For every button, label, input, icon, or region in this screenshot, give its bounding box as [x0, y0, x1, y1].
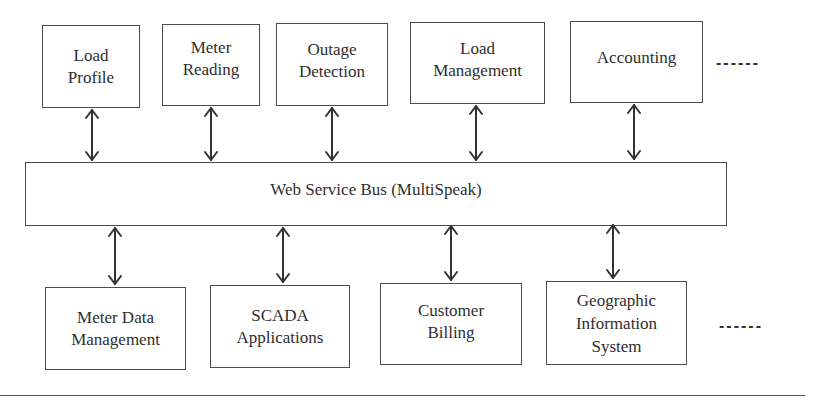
arrow-outage-detection-bus — [326, 108, 338, 160]
connector-arrows — [0, 0, 814, 401]
arrow-bus-scada-applications — [277, 228, 289, 282]
arrow-load-profile-bus — [86, 110, 98, 160]
arrow-bus-meter-data-management — [109, 228, 121, 284]
arrow-load-management-bus — [470, 106, 482, 160]
bottom-rule-divider — [0, 395, 805, 396]
arrow-accounting-bus — [628, 105, 640, 159]
arrow-bus-geographic-information-system — [607, 225, 619, 278]
arrow-bus-customer-billing — [445, 226, 457, 280]
arrow-meter-reading-bus — [205, 108, 217, 160]
